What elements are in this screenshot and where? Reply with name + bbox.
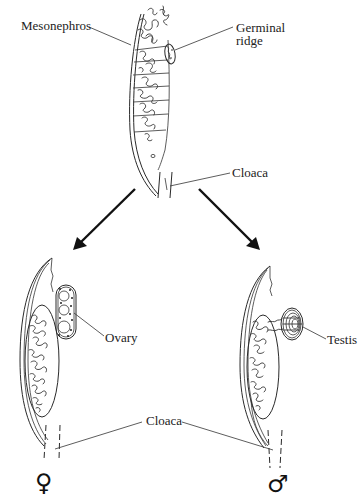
arrow-to-male <box>199 189 260 250</box>
testis-label: Testis <box>327 333 357 347</box>
cloaca-label-bottom: Cloaca <box>146 414 182 428</box>
male-symbol-icon: ♂ <box>267 472 289 496</box>
testis-leader <box>303 327 326 339</box>
germinal-ridge-leader <box>175 27 233 50</box>
arrow-to-female <box>73 189 135 250</box>
ovary-leader <box>74 313 104 336</box>
ovary-drawing <box>56 285 76 339</box>
cloaca-label-top: Cloaca <box>232 166 268 180</box>
male-mesonephros-drawing <box>240 266 283 468</box>
mesonephros-label: Mesonephros <box>21 19 91 33</box>
testis-drawing <box>281 308 303 340</box>
mesonephros-drawing <box>130 6 172 198</box>
cloaca-leader-female <box>55 422 142 449</box>
ovary-label: Ovary <box>105 331 138 345</box>
germinal-ridge-label-line2: ridge <box>236 34 263 48</box>
female-symbol-icon: ♀ <box>35 471 53 495</box>
cloaca-leader-top <box>170 173 230 186</box>
diagram-canvas: Mesonephros Germinal ridge Cloaca Ovary … <box>0 0 362 497</box>
mesonephros-leader <box>89 27 131 45</box>
female-mesonephros-drawing <box>20 258 60 460</box>
